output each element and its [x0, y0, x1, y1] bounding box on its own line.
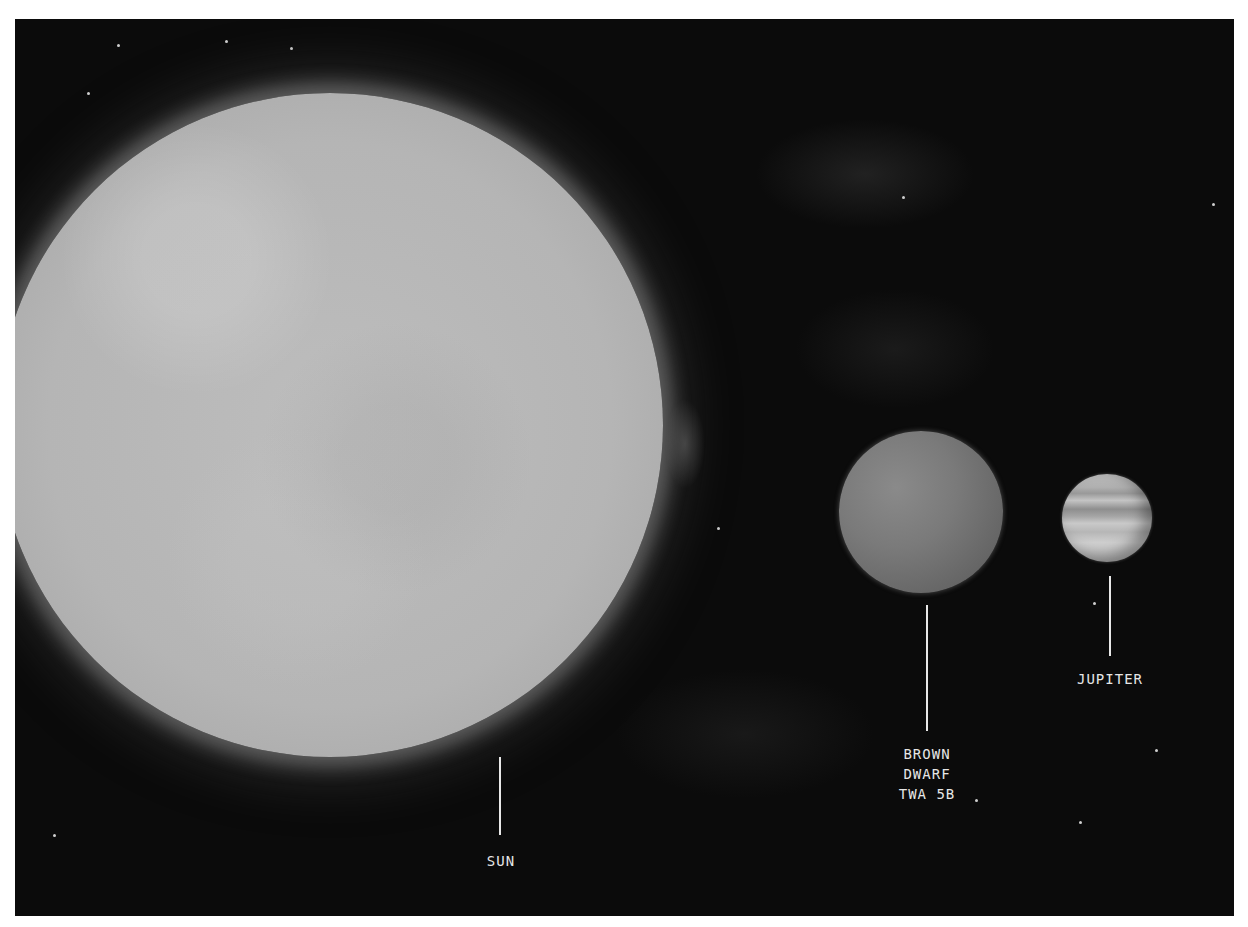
- jupiter-label: JUPITER: [1077, 669, 1143, 689]
- nebula-glow: [615, 669, 875, 799]
- brown-dwarf-label: BROWN DWARF TWA 5B: [899, 744, 956, 804]
- illustration-frame: SUN BROWN DWARF TWA 5B JUPITER: [15, 19, 1234, 916]
- nebula-glow: [795, 289, 995, 409]
- star: [717, 527, 720, 530]
- star: [53, 834, 56, 837]
- star: [225, 40, 228, 43]
- solar-prominence: [665, 399, 705, 489]
- nebula-glow: [755, 119, 975, 229]
- star: [1093, 602, 1096, 605]
- sun-pointer-line: [499, 757, 501, 835]
- sun-disc: [15, 93, 663, 757]
- star: [117, 44, 120, 47]
- brown-dwarf-disc: [839, 431, 1003, 593]
- star: [902, 196, 905, 199]
- jupiter-pointer-line: [1109, 576, 1111, 656]
- sun-label: SUN: [487, 851, 515, 871]
- star: [290, 47, 293, 50]
- star: [1212, 203, 1215, 206]
- jupiter-disc: [1062, 474, 1152, 562]
- star: [1155, 749, 1158, 752]
- brown-dwarf-pointer-line: [926, 605, 928, 731]
- star: [1079, 821, 1082, 824]
- star: [87, 92, 90, 95]
- star: [975, 799, 978, 802]
